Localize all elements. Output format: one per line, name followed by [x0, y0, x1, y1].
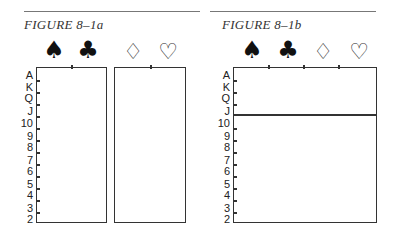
spade-icon: ♠ — [240, 38, 264, 62]
figure-caption: FIGURE 8–1b — [222, 17, 301, 33]
suit-divider-tick — [338, 65, 340, 69]
rank-tick — [233, 80, 237, 82]
rank-tick — [233, 176, 237, 178]
rank-tick — [233, 152, 237, 154]
rank-tick — [233, 164, 237, 166]
rank-label: Q — [206, 93, 230, 104]
figure-8-1b: FIGURE 8–1b ♠ ♣ ♢ ♡ A K Q J 10 9 8 7 6 5… — [0, 0, 395, 240]
rank-tick — [233, 92, 237, 94]
j-10-divider-line — [233, 114, 377, 116]
rank-label: 4 — [206, 190, 230, 201]
rank-label: 6 — [206, 166, 230, 177]
all-suits-box — [233, 67, 377, 223]
diamond-icon: ♢ — [311, 40, 335, 64]
club-icon: ♣ — [276, 38, 300, 62]
rank-label: 8 — [206, 142, 230, 153]
rank-tick — [233, 104, 237, 106]
rank-tick — [233, 128, 237, 130]
rank-label: 10 — [206, 118, 230, 129]
suit-divider-tick — [303, 65, 305, 69]
rank-tick — [233, 212, 237, 214]
rank-tick — [233, 140, 237, 142]
rank-label: 2 — [206, 214, 230, 225]
rank-tick — [233, 200, 237, 202]
rank-label: A — [206, 70, 230, 81]
rank-tick — [233, 188, 237, 190]
heart-icon: ♡ — [347, 40, 371, 64]
suit-divider-tick — [268, 65, 270, 69]
rank-label: J — [206, 106, 230, 117]
